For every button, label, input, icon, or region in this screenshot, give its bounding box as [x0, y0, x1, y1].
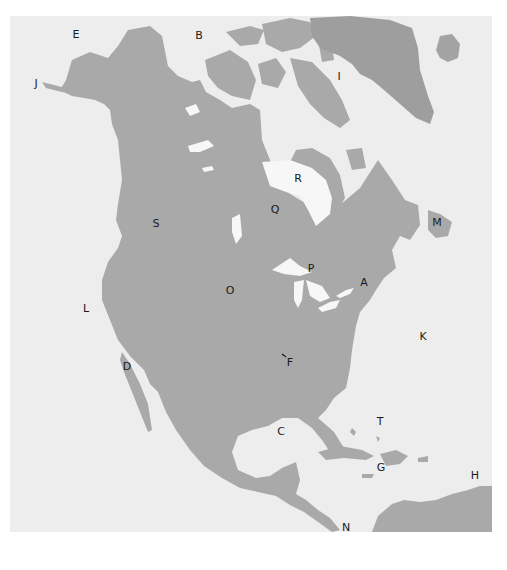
label-p: P: [308, 262, 315, 275]
label-j: J: [33, 77, 37, 90]
north-america-map: A B C D E F G H I J K L M N O P Q R S T: [0, 0, 507, 570]
label-b: B: [195, 29, 203, 42]
label-s: S: [153, 217, 160, 230]
label-k: K: [419, 330, 427, 343]
label-t: T: [376, 415, 384, 428]
label-e: E: [73, 28, 80, 41]
label-a: A: [360, 276, 368, 289]
label-h: H: [471, 469, 479, 482]
label-q: Q: [271, 203, 280, 216]
label-m: M: [432, 216, 442, 229]
label-c: C: [277, 425, 285, 438]
label-g: G: [377, 461, 386, 474]
label-r: R: [294, 172, 302, 185]
label-f: F: [287, 356, 293, 369]
label-d: D: [123, 360, 131, 373]
label-i: I: [337, 70, 340, 83]
label-l: L: [83, 302, 90, 315]
label-o: O: [226, 284, 235, 297]
label-n: N: [342, 521, 350, 534]
